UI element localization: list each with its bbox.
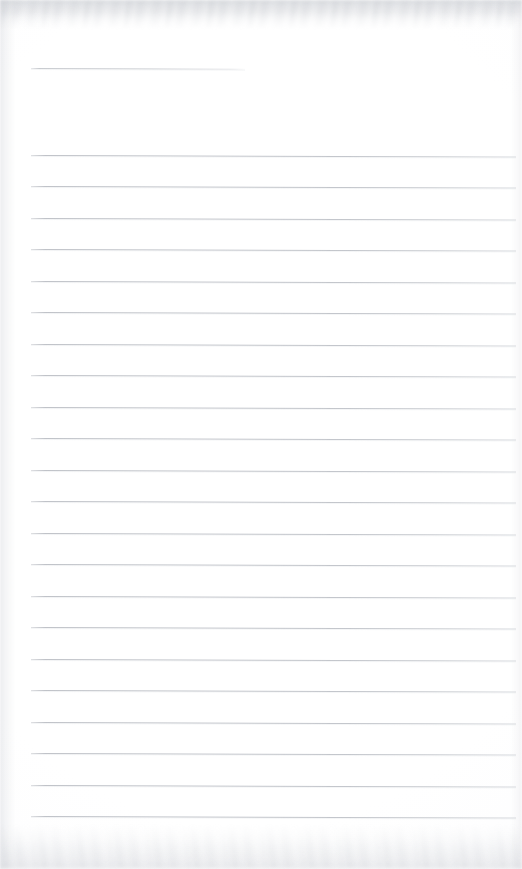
- paper-background: [0, 0, 522, 869]
- scanned-page: [0, 0, 522, 869]
